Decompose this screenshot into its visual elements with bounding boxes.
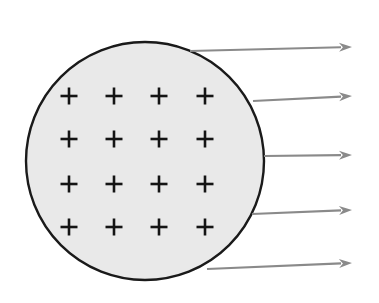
charged-sphere [26,42,264,280]
field-arrow-shaft [264,155,341,156]
physics-diagram-svg [0,0,379,303]
figure-container [0,0,379,303]
sphere-outline [26,42,264,280]
